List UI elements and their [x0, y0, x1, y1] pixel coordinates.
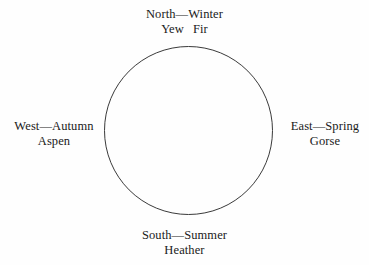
label-north: North—Winter YewFir: [0, 7, 369, 38]
label-west-line1: West—Autumn: [8, 119, 100, 134]
label-west-line2: Aspen: [8, 134, 100, 149]
label-east-line2: Gorse: [285, 134, 365, 149]
label-west: West—Autumn Aspen: [8, 119, 100, 150]
label-east-line1: East—Spring: [285, 119, 365, 134]
label-south-line1: South—Summer: [0, 228, 369, 243]
label-north-line1: North—Winter: [0, 7, 369, 22]
season-wheel-circle: [105, 47, 273, 215]
label-east: East—Spring Gorse: [285, 119, 365, 150]
label-north-line2: YewFir: [0, 22, 369, 37]
label-north-plant1: Yew: [161, 22, 184, 36]
label-south-line2: Heather: [0, 243, 369, 258]
label-south: South—Summer Heather: [0, 228, 369, 259]
diagram-canvas: North—Winter YewFir West—Autumn Aspen Ea…: [0, 0, 369, 265]
label-north-plant2: Fir: [193, 22, 208, 36]
